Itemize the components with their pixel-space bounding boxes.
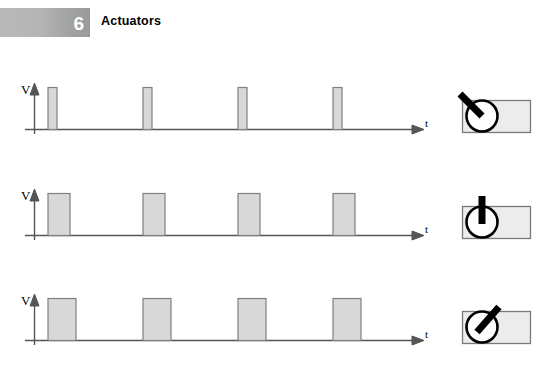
- actuator-gauge-up: [455, 195, 547, 245]
- pulse-train: [48, 299, 361, 341]
- y-axis-label: V: [21, 83, 30, 96]
- page-title: Actuators: [101, 14, 161, 28]
- y-axis-label: V: [21, 294, 30, 307]
- actuator-gauge-up-left: [455, 89, 547, 139]
- axes: [25, 83, 424, 134]
- pulse-train: [48, 88, 342, 130]
- x-axis-label: t: [425, 118, 428, 129]
- waveform-row: V t: [0, 283, 554, 371]
- x-axis-label: t: [425, 224, 428, 235]
- page-header: 6 Actuators: [0, 0, 554, 48]
- pwm-plot-low-duty: V t: [0, 72, 440, 167]
- pwm-plot-medium-duty: V t: [0, 178, 440, 273]
- pulse-train: [48, 194, 355, 236]
- axes: [25, 189, 424, 240]
- chapter-number-bar: 6: [0, 8, 90, 37]
- waveform-row: V t: [0, 72, 554, 167]
- x-axis-label: t: [425, 329, 428, 340]
- chapter-number: 6: [73, 13, 84, 32]
- waveform-row: V t: [0, 178, 554, 273]
- pwm-plot-high-duty: V t: [0, 283, 440, 371]
- y-axis-label: V: [21, 189, 30, 202]
- actuator-gauge-up-right: [455, 300, 547, 350]
- axes: [25, 294, 424, 345]
